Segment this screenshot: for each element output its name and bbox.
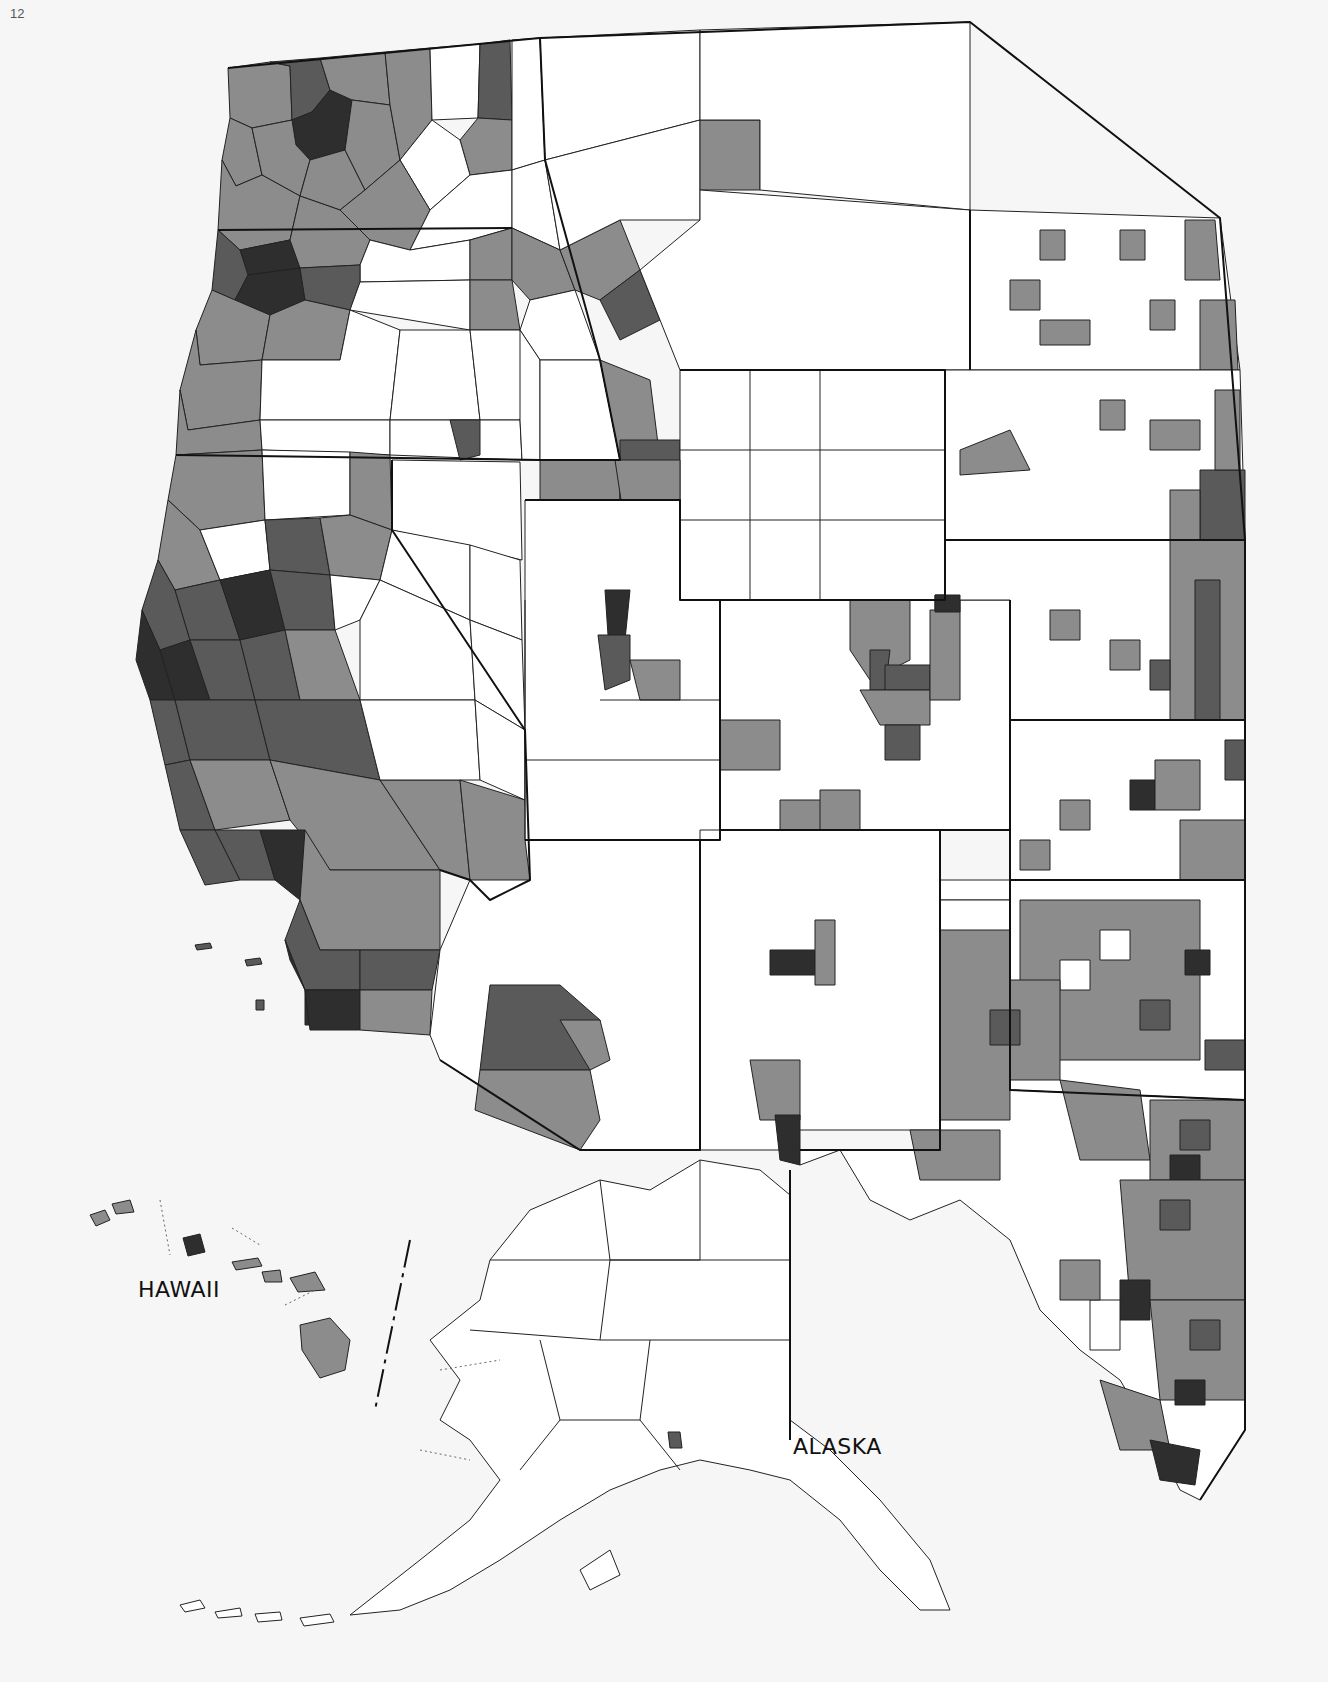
state-montana [540,22,970,370]
hawaii-label: HAWAII [138,1277,220,1302]
county-choropleth-map [0,0,1328,1682]
alaska-label: ALASKA [793,1434,882,1459]
alaska-inset [180,1160,950,1626]
channel-islands [195,943,264,1010]
state-washington [218,40,512,282]
hawaii-inset [90,1200,410,1410]
state-north-dakota [970,210,1240,370]
state-new-mexico [700,830,940,1165]
state-arizona [430,840,700,1150]
state-south-dakota [945,370,1245,540]
state-colorado [720,595,1010,830]
state-kansas [1010,720,1245,880]
